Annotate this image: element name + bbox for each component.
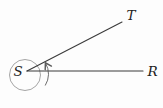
ray-st bbox=[27, 22, 122, 71]
angle-diagram: S T R bbox=[0, 0, 163, 108]
rotation-arc bbox=[45, 63, 48, 85]
ray-label-t: T bbox=[127, 7, 137, 23]
ray-label-r: R bbox=[147, 63, 158, 79]
vertex-label-s: S bbox=[14, 63, 23, 79]
angle-diagram-canvas: S T R bbox=[0, 0, 163, 108]
